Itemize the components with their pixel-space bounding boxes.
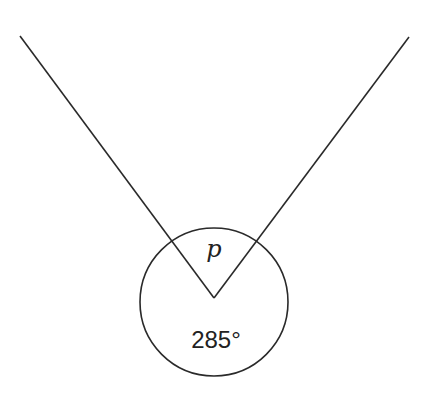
right-ray <box>214 37 409 298</box>
angle-diagram: p 285° <box>0 0 424 399</box>
left-ray <box>20 36 214 298</box>
inner-angle-label: p <box>206 235 221 263</box>
reflex-angle-label: 285° <box>191 326 241 353</box>
